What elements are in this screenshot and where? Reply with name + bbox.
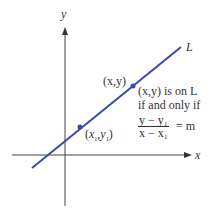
equals-m: = m <box>176 120 195 133</box>
annotation-line2: if and only if <box>138 99 200 112</box>
point-x-y <box>131 84 136 89</box>
slope-fraction: y − y₁ x − x₁ <box>138 114 169 139</box>
point-x1-y1-label: (x1,y1) <box>85 128 113 146</box>
line-label: L <box>186 41 193 54</box>
fraction-denominator: x − x₁ <box>138 127 169 139</box>
x-axis-arrow-icon <box>184 152 192 158</box>
x-subscript: 1 <box>94 136 97 142</box>
annotation-line1: (x,y) is on L <box>138 85 197 98</box>
y-subscript: 1 <box>106 136 109 142</box>
point-x-y-label: (x,y) <box>103 75 126 88</box>
x-axis-label: x <box>195 149 200 162</box>
point-x1-y1 <box>78 125 83 130</box>
y-axis-label: y <box>61 8 66 21</box>
y-axis-arrow-icon <box>62 27 68 35</box>
